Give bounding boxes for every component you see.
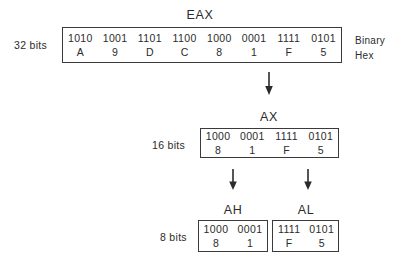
eax-nibble: 1111F xyxy=(272,28,307,62)
al-nibble: 1111F xyxy=(273,221,306,251)
eax-nibble-hex: 5 xyxy=(321,47,327,58)
eax-nibble-hex: 8 xyxy=(216,47,222,58)
eax-register-box: 1010A100191101D1100C10008000111111F01015 xyxy=(62,27,342,63)
ax-nibble-hex: 8 xyxy=(215,145,221,156)
ax-nibble: 10008 xyxy=(201,129,235,157)
ax-nibble-binary: 1111 xyxy=(275,131,298,142)
ax-nibble-binary: 1000 xyxy=(206,131,231,142)
ax-nibble-binary: 0101 xyxy=(308,131,333,142)
al-nibble-hex: F xyxy=(286,238,293,249)
eax-nibble-hex: 1 xyxy=(251,47,257,58)
eax-nibble-binary: 0101 xyxy=(311,33,336,44)
eax-nibble: 10008 xyxy=(202,28,237,62)
eax-title: EAX xyxy=(160,8,240,22)
eax-to-ax-arrow xyxy=(262,72,276,96)
ah-nibble-hex: 8 xyxy=(213,238,219,249)
al-register-box: 1111F01015 xyxy=(272,220,339,252)
eax-nibble-hex: 9 xyxy=(112,47,118,58)
register-decomposition-diagram: EAX 32 bits 1010A100191101D1100C10008000… xyxy=(0,0,397,265)
eax-nibble-binary: 1000 xyxy=(207,33,232,44)
ax-size-label: 16 bits xyxy=(152,139,185,151)
al-title: AL xyxy=(266,203,346,217)
eax-nibble-binary: 1111 xyxy=(278,33,301,44)
eax-nibble: 1100C xyxy=(167,28,202,62)
al-nibble: 01015 xyxy=(306,221,339,251)
ax-nibble: 1111F xyxy=(270,129,304,157)
ah-nibble-binary: 1000 xyxy=(204,224,229,235)
al-nibble-binary: 1111 xyxy=(278,224,301,235)
binary-legend-label: Binary xyxy=(355,35,385,46)
ax-title: AX xyxy=(229,110,309,124)
eax-nibble: 10019 xyxy=(98,28,133,62)
eax-nibble-binary: 1010 xyxy=(68,33,93,44)
ah-register-box: 1000800011 xyxy=(198,220,268,252)
eax-nibble: 1010A xyxy=(63,28,98,62)
ah-nibble-binary: 0001 xyxy=(238,224,263,235)
eax-nibble-binary: 1101 xyxy=(138,33,162,44)
ax-nibble-hex: 5 xyxy=(318,145,324,156)
ax-nibble-hex: F xyxy=(283,145,290,156)
ah-nibble-hex: 1 xyxy=(247,238,253,249)
eax-nibble-hex: C xyxy=(181,47,189,58)
ax-nibble-hex: 1 xyxy=(249,145,255,156)
ah-size-label: 8 bits xyxy=(160,231,187,243)
eax-nibble-hex: F xyxy=(285,47,292,58)
ah-nibble: 10008 xyxy=(199,221,233,251)
ax-nibble: 00011 xyxy=(235,129,269,157)
al-nibble-hex: 5 xyxy=(319,238,325,249)
al-nibble-binary: 0101 xyxy=(309,224,334,235)
eax-nibble: 1101D xyxy=(133,28,168,62)
eax-size-label: 32 bits xyxy=(14,39,47,51)
eax-nibble-binary: 1001 xyxy=(103,33,128,44)
ax-to-al-arrow xyxy=(301,169,315,191)
eax-nibble: 01015 xyxy=(306,28,341,62)
ax-to-ah-arrow xyxy=(226,169,240,191)
eax-nibble-hex: D xyxy=(146,47,154,58)
hex-legend-label: Hex xyxy=(355,50,374,61)
eax-nibble-binary: 0001 xyxy=(242,33,267,44)
ah-title: AH xyxy=(193,203,273,217)
eax-nibble: 00011 xyxy=(237,28,272,62)
eax-nibble-hex: A xyxy=(77,47,84,58)
ax-register-box: 10008000111111F01015 xyxy=(200,128,339,158)
ax-nibble: 01015 xyxy=(304,129,338,157)
eax-nibble-binary: 1100 xyxy=(173,33,197,44)
ax-nibble-binary: 0001 xyxy=(240,131,265,142)
ah-nibble: 00011 xyxy=(233,221,267,251)
